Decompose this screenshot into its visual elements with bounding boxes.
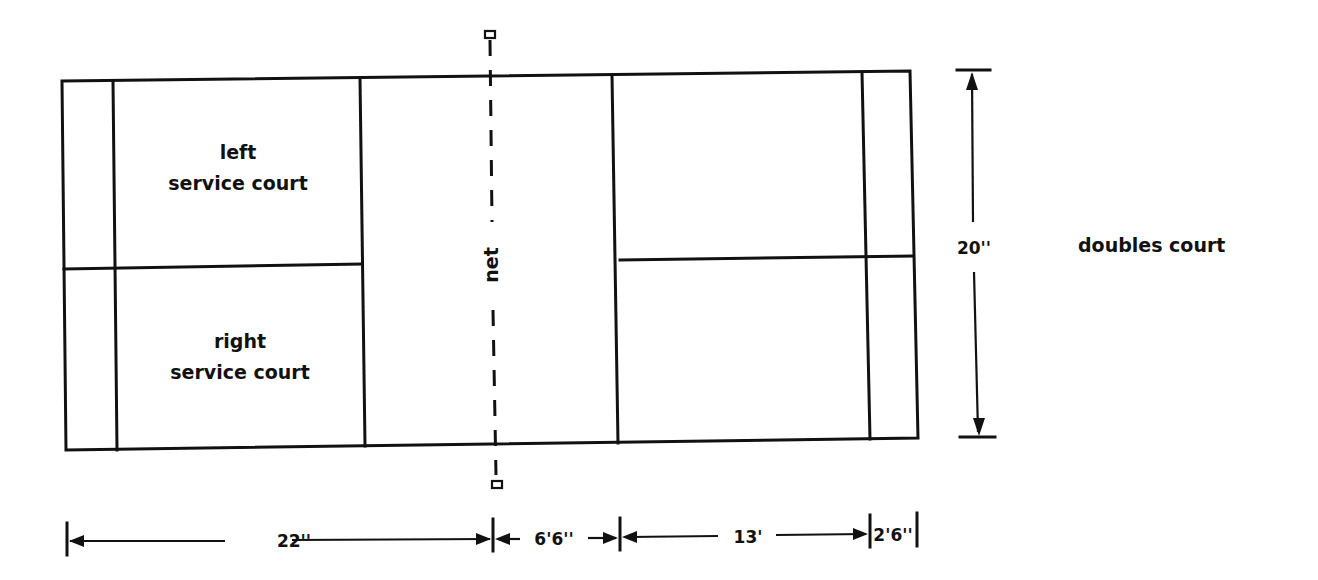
arrow-right-icon <box>853 528 868 540</box>
net-label: net <box>480 247 502 283</box>
arrow-down-icon <box>973 418 985 436</box>
net-line-top <box>490 40 492 222</box>
net-post-top-icon <box>485 31 495 38</box>
left-long-service-line-doubles <box>113 81 117 450</box>
width-dimension-line-bottom <box>974 272 978 432</box>
dim-22-line-right <box>292 539 490 540</box>
left-center-line <box>64 264 362 269</box>
dim-long-service-to-back-label: 2'6'' <box>873 525 912 545</box>
width-dimension-label: 20'' <box>957 238 991 258</box>
net-line-bottom <box>493 310 496 475</box>
arrow-right-icon <box>603 532 618 544</box>
width-dimension-line-top <box>972 74 973 222</box>
left-short-service-line <box>360 78 365 446</box>
right-center-line <box>620 256 913 260</box>
dim-net-to-short-service-label: 6'6'' <box>534 529 573 549</box>
net-post-bottom-icon <box>492 481 502 488</box>
arrow-right-icon <box>476 533 491 545</box>
arrow-left-icon <box>69 535 84 547</box>
dim-13-line-left <box>628 536 718 537</box>
right-service-court-label-line1: right <box>214 330 266 352</box>
dim-short-to-long-service-label: 13' <box>734 527 763 547</box>
right-service-court-label-line2: service court <box>170 361 310 383</box>
badminton-court-diagram: net left service court right service cou… <box>0 0 1318 580</box>
left-service-court-label-line2: service court <box>168 172 308 194</box>
right-short-service-line <box>612 75 618 443</box>
diagram-title: doubles court <box>1078 234 1225 256</box>
left-service-court-label-line1: left <box>220 141 257 163</box>
arrow-up-icon <box>966 72 978 90</box>
dim-13-line-right <box>776 534 866 535</box>
